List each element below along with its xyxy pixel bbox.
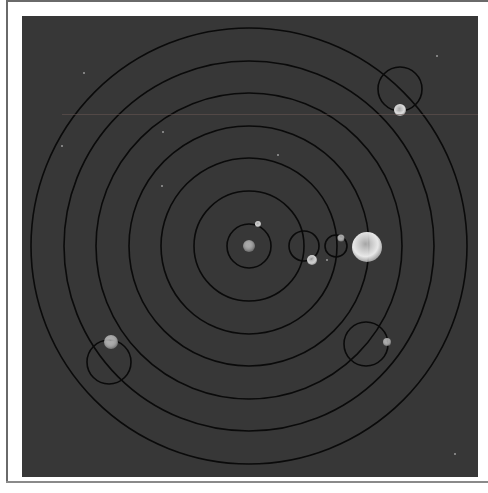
moon-icon <box>255 221 261 227</box>
star-dot <box>83 72 85 74</box>
star-dot <box>162 131 164 133</box>
star-dot <box>326 259 328 261</box>
sun-icon <box>352 232 382 262</box>
planet-b-icon <box>338 235 345 242</box>
star-dot <box>161 185 163 187</box>
frame-left-border <box>6 0 8 482</box>
star-dot <box>277 154 279 156</box>
orrery-diagram <box>22 16 478 477</box>
central-body-icon <box>243 240 255 252</box>
orrery-panel <box>22 16 478 477</box>
planet-e-icon <box>104 335 118 349</box>
planet-a-icon <box>307 255 317 265</box>
scan-artifact-line <box>62 114 478 115</box>
frame-bottom-border <box>6 481 488 483</box>
star-dot <box>436 55 438 57</box>
planet-d-icon <box>383 338 391 346</box>
star-dot <box>61 145 63 147</box>
star-dot <box>454 453 456 455</box>
frame-top-border <box>6 0 488 2</box>
